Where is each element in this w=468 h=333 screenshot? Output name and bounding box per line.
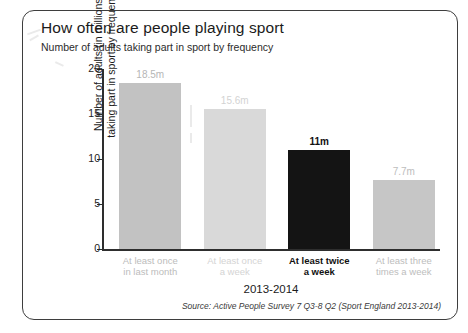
bar-value-label: 15.6m bbox=[221, 95, 249, 106]
scan-artefact bbox=[190, 133, 192, 143]
x-axis-title: 2013-2014 bbox=[102, 283, 440, 295]
bar[interactable]: 18.5m bbox=[119, 83, 181, 250]
x-category-label-line: At least three bbox=[362, 255, 447, 266]
scan-artefact bbox=[29, 35, 38, 41]
bar-value-label: 11m bbox=[310, 136, 329, 147]
chart-title: How often are people playing sport bbox=[41, 19, 284, 37]
bar-value-label: 18.5m bbox=[136, 69, 164, 80]
y-tick-label: 0 bbox=[74, 242, 100, 254]
x-category-label: At least threetimes a week bbox=[362, 255, 447, 277]
x-category-label-line: At least once bbox=[108, 255, 193, 266]
scan-artefact bbox=[55, 61, 64, 66]
y-axis-title-line1: Number of adults (in millions) bbox=[92, 0, 105, 163]
x-category-label-line: times a week bbox=[362, 266, 447, 277]
x-category-label-line: a week bbox=[277, 266, 362, 277]
x-category-label: At least oncein last month bbox=[108, 255, 193, 277]
x-axis-line bbox=[102, 249, 440, 251]
source-note: Source: Active People Survey 7 Q3-8 Q2 (… bbox=[182, 301, 441, 311]
x-category-label-line: At least twice bbox=[277, 255, 362, 266]
bar[interactable]: 11m bbox=[288, 150, 350, 249]
x-category-label: At least twicea week bbox=[277, 255, 362, 277]
x-category-label: At least oncea week bbox=[193, 255, 278, 277]
x-category-label-line: in last month bbox=[108, 266, 193, 277]
bar[interactable]: 15.6m bbox=[204, 109, 266, 249]
y-axis-title-line2: taking part in sport by frequency bbox=[105, 0, 118, 163]
y-axis-title: Number of adults (in millions) taking pa… bbox=[92, 0, 118, 163]
x-category-label-line: a week bbox=[193, 266, 278, 277]
plot-area: 05101520 Number of adults (in millions) … bbox=[102, 59, 440, 261]
scan-artefact bbox=[27, 29, 41, 36]
y-tick-label: 5 bbox=[74, 197, 100, 209]
x-category-label-line: At least once bbox=[193, 255, 278, 266]
bar[interactable]: 7.7m bbox=[373, 180, 435, 249]
chart-subtitle: Number of adults taking part in sport by… bbox=[41, 41, 273, 53]
bar-value-label: 7.7m bbox=[393, 166, 415, 177]
scan-artefact bbox=[190, 105, 192, 127]
chart-card: How often are people playing sport Numbe… bbox=[22, 10, 458, 320]
